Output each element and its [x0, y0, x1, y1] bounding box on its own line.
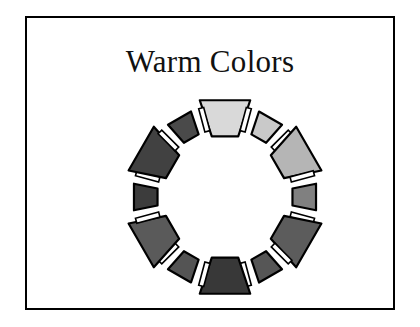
color-wheel-container [27, 18, 393, 308]
swatch-6-bottom-right-small [251, 251, 282, 282]
swatch-12-top-left-small [168, 112, 199, 143]
swatch-4-right-small [292, 184, 316, 211]
color-wheel-diagram [115, 85, 335, 315]
slide-frame: Warm Colors [25, 16, 395, 310]
swatch-11-upper-left-large [129, 127, 180, 178]
swatch-10-left-small [134, 184, 158, 211]
page-canvas: Warm Colors [0, 0, 420, 327]
swatch-8-bottom-left-small [168, 251, 199, 282]
swatch-5-lower-right-large [271, 216, 322, 267]
swatch-2-upper-right-small [251, 112, 282, 143]
color-wheel-segments [129, 100, 322, 294]
